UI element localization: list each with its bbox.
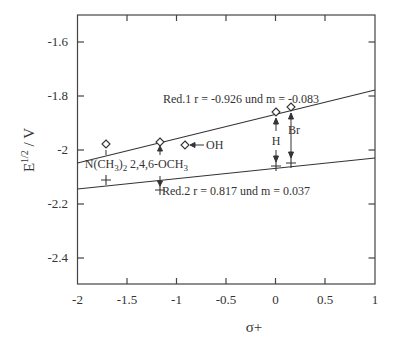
y-tick-label: -1.8: [47, 88, 68, 103]
x-axis-title: σ+: [246, 319, 263, 335]
diamond-marker: [181, 141, 189, 149]
y-tick-labels: -1.6 -1.8 -2 -2.2 -2.4: [47, 34, 68, 265]
red1-points: [102, 103, 295, 149]
x-tick-label: -2: [72, 292, 83, 307]
y-tick-label: -2: [57, 142, 68, 157]
x-tick-label: -1: [171, 292, 182, 307]
diamond-marker: [102, 140, 110, 148]
y-axis-title: E1/2 / V: [19, 128, 37, 172]
x-tick-labels: -2 -1.5 -1 -0.5 0 0.5 1: [72, 292, 378, 307]
label-2-4-6-och3: 2,4,6-OCH3: [130, 157, 188, 173]
x-tick-label: -1.5: [117, 292, 138, 307]
label-oh: OH: [206, 138, 224, 152]
y-tick-label: -2.2: [47, 196, 68, 211]
x-tick-label: 1: [372, 292, 379, 307]
x-tick-label: 0.5: [317, 292, 333, 307]
chart: -2 -1.5 -1 -0.5 0 0.5 1 -1.6 -1.8 -2 -2.…: [0, 0, 393, 342]
y-ticks: [78, 42, 376, 258]
red2-annotation: Red.2 r = 0.817 und m = 0.037: [162, 184, 310, 198]
plot-frame: [78, 15, 376, 284]
x-tick-label: -0.5: [216, 292, 237, 307]
diamond-marker: [156, 138, 164, 146]
label-n-ch3-2: N(CH3)2: [85, 157, 127, 173]
x-ticks: [127, 15, 325, 284]
red1-annotation: Red.1 r = -0.926 und m = -0.083: [163, 92, 319, 106]
label-br: Br: [288, 123, 300, 137]
y-tick-label: -2.4: [47, 250, 68, 265]
x-tick-label: 0: [272, 292, 279, 307]
y-tick-label: -1.6: [47, 34, 68, 49]
plus-marker: [101, 175, 111, 185]
label-h: H: [272, 134, 281, 148]
